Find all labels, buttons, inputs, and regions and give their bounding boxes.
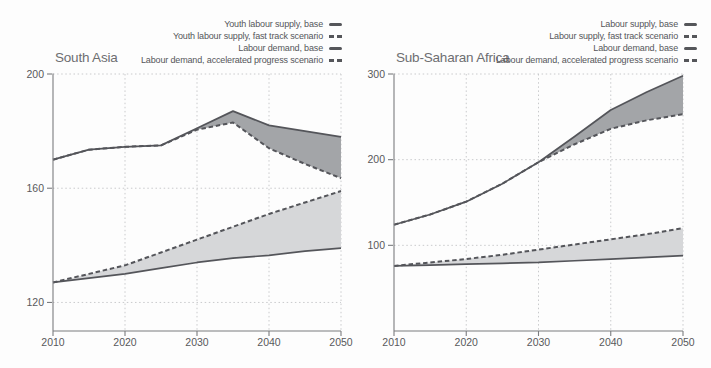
chart-panel-sub-saharan-africa: 10020030020102020203020402050 Sub-Sahara…	[356, 0, 711, 368]
x-tick-label: 2050	[329, 336, 353, 348]
legend-item: Labour supply, fast track scenario	[496, 31, 697, 41]
legend-label: Youth labour supply, fast track scenario	[173, 31, 323, 41]
chart-title: Sub-Saharan Africa	[396, 50, 509, 65]
legend-label: Youth labour supply, base	[224, 19, 323, 29]
legend-label: Labour demand, base	[593, 43, 678, 53]
legend-item: Labour demand, accelerated progress scen…	[141, 55, 342, 65]
x-tick-label: 2020	[113, 336, 137, 348]
legend-item: Youth labour supply, fast track scenario	[141, 31, 342, 41]
y-tick-label: 200	[26, 68, 44, 80]
y-tick-label: 120	[26, 296, 44, 308]
legend-marker-solid-icon	[329, 23, 342, 26]
legend-item: Labour demand, accelerated progress scen…	[496, 55, 697, 65]
x-tick-label: 2030	[185, 336, 209, 348]
legend: Youth labour supply, base Youth labour s…	[141, 19, 342, 65]
y-axis-ticks: 100200300	[367, 68, 393, 251]
legend-item: Youth labour supply, base	[141, 19, 342, 29]
gridlines	[53, 74, 341, 331]
legend-marker-dashed-icon	[684, 59, 697, 62]
x-tick-label: 2040	[257, 336, 281, 348]
shaded-bands	[394, 76, 683, 266]
y-tick-label: 100	[367, 239, 385, 251]
legend-item: Labour demand, base	[141, 43, 342, 53]
figure: 12016020020102020203020402050 South Asia…	[0, 0, 711, 368]
legend-marker-solid-icon	[684, 47, 697, 50]
y-tick-label: 200	[367, 153, 385, 165]
legend-label: Labour demand, accelerated progress scen…	[141, 55, 323, 65]
legend-marker-dashed-icon	[329, 35, 342, 38]
legend-label: Labour supply, fast track scenario	[549, 31, 678, 41]
legend: Labour supply, base Labour supply, fast …	[496, 19, 697, 65]
legend-label: Labour supply, base	[600, 19, 678, 29]
y-tick-label: 160	[26, 182, 44, 194]
chart-title: South Asia	[55, 50, 118, 65]
y-tick-label: 300	[367, 68, 385, 80]
legend-item: Labour demand, base	[496, 43, 697, 53]
x-tick-label: 2050	[671, 336, 695, 348]
legend-label: Labour demand, base	[238, 43, 323, 53]
x-axis-ticks: 20102020203020402050	[41, 331, 353, 348]
x-tick-label: 2010	[382, 336, 406, 348]
legend-label: Labour demand, accelerated progress scen…	[496, 55, 678, 65]
legend-marker-solid-icon	[684, 23, 697, 26]
legend-item: Labour supply, base	[496, 19, 697, 29]
chart-panel-south-asia: 12016020020102020203020402050 South Asia…	[0, 0, 356, 368]
legend-marker-dashed-icon	[329, 59, 342, 62]
x-tick-label: 2020	[455, 336, 479, 348]
y-axis-ticks: 120160200	[26, 68, 52, 308]
x-tick-label: 2030	[527, 336, 551, 348]
x-tick-label: 2010	[41, 336, 65, 348]
x-tick-label: 2040	[599, 336, 623, 348]
x-axis-ticks: 20102020203020402050	[382, 331, 695, 348]
legend-marker-solid-icon	[329, 47, 342, 50]
legend-marker-dashed-icon	[684, 35, 697, 38]
